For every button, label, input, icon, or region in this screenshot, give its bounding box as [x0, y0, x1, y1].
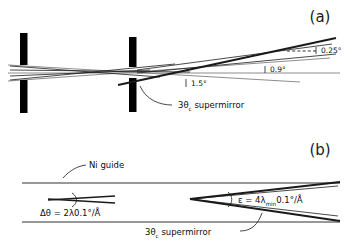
delta-theta-ray-2: [48, 199, 115, 203]
supermirror-prefix-a: 3θ: [178, 100, 189, 110]
supermirror-prefix-b: 3θ: [145, 227, 156, 237]
panel-b-label: (b): [309, 141, 330, 159]
panel-a: (a): [8, 8, 342, 113]
ni-guide-leader: [63, 165, 86, 178]
supermirror-suffix-a: supermirror: [192, 100, 245, 110]
epsilon-formula: ε = 4λmin0.1°/Å: [238, 194, 303, 207]
delta-theta-formula: Δθ = 2λ0.1°/Å: [40, 207, 101, 218]
epsilon-subscript: min: [266, 201, 277, 207]
schematic-figure: (a): [0, 0, 359, 251]
slit-left-lower-bar: [20, 80, 28, 113]
angle-label-15: 1.5°: [191, 79, 207, 88]
slit-left-upper-bar: [20, 33, 28, 65]
figure-root: (a): [0, 0, 359, 251]
ni-guide-label: Ni guide: [89, 160, 124, 170]
epsilon-prefix: ε = 4λ: [238, 195, 266, 205]
slit-right-upper-bar: [129, 37, 137, 67]
panel-b: (b) Ni guide Δθ = 2λ0.1°/Å: [22, 141, 340, 239]
supermirror-label-a: 3θc supermirror: [178, 100, 245, 112]
epsilon-suffix: 0.1°/Å: [276, 194, 303, 205]
angle-label-09: 0.9°: [270, 65, 286, 74]
supermirror-label-b: 3θc supermirror: [145, 227, 212, 239]
supermirror-suffix-b: supermirror: [159, 227, 212, 237]
panel-a-label: (a): [310, 8, 331, 26]
supermirror-leader-a: [140, 86, 172, 105]
angle-label-025: 0.25°: [321, 46, 342, 55]
